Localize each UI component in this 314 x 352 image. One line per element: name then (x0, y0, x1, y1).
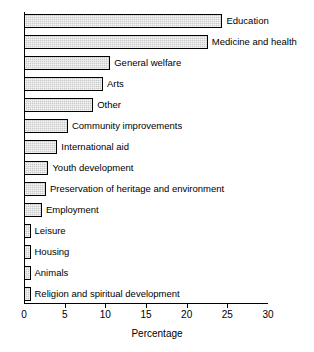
bar (24, 56, 110, 70)
x-axis-title: Percentage (0, 328, 314, 339)
bar-row: Other (24, 96, 268, 117)
bar-category-label: Community improvements (72, 119, 182, 133)
bar-category-label: Animals (35, 266, 69, 280)
bar-category-label: International aid (61, 140, 129, 154)
bar-category-label: Leisure (35, 224, 66, 238)
plot-area: EducationMedicine and healthGeneral welf… (24, 12, 268, 300)
bar (24, 35, 208, 49)
bar-row: General welfare (24, 54, 268, 75)
bar (24, 140, 57, 154)
bar-row: Employment (24, 201, 268, 222)
bar-row: Housing (24, 243, 268, 264)
bar-row: Animals (24, 264, 268, 285)
bar-category-label: General welfare (114, 56, 181, 70)
bar-category-label: Youth development (52, 161, 133, 175)
bar-row: Preservation of heritage and environment (24, 180, 268, 201)
x-tick-label: 25 (215, 309, 239, 321)
x-tick-label: 20 (175, 309, 199, 321)
bar-category-label: Preservation of heritage and environment (50, 182, 224, 196)
x-tick-mark (187, 303, 188, 308)
bar (24, 119, 68, 133)
bar (24, 203, 42, 217)
bar (24, 161, 48, 175)
bar-category-label: Religion and spiritual development (35, 287, 180, 301)
bar-series: EducationMedicine and healthGeneral welf… (24, 12, 268, 300)
bar-row: Community improvements (24, 117, 268, 138)
x-tick-label: 30 (256, 309, 280, 321)
bar (24, 224, 31, 238)
x-tick-label: 0 (12, 309, 36, 321)
bar-category-label: Other (97, 98, 121, 112)
bar (24, 287, 31, 301)
bar-category-label: Medicine and health (212, 35, 297, 49)
bar-category-label: Education (226, 14, 268, 28)
x-tick-mark (146, 303, 147, 308)
x-tick-label: 10 (93, 309, 117, 321)
bar-row: International aid (24, 138, 268, 159)
bar-category-label: Arts (107, 77, 124, 91)
x-tick-label: 15 (134, 309, 158, 321)
bar (24, 182, 46, 196)
bar (24, 98, 93, 112)
bar-row: Arts (24, 75, 268, 96)
bar (24, 77, 103, 91)
x-tick-mark (227, 303, 228, 308)
bar-row: Leisure (24, 222, 268, 243)
bar-row: Medicine and health (24, 33, 268, 54)
x-tick-mark (105, 303, 106, 308)
bar-category-label: Housing (35, 245, 70, 259)
bar (24, 14, 222, 28)
bar-category-label: Employment (46, 203, 99, 217)
bar (24, 245, 31, 259)
x-tick-mark (65, 303, 66, 308)
bar-chart: EducationMedicine and healthGeneral welf… (0, 0, 314, 352)
bar-row: Youth development (24, 159, 268, 180)
bar-row: Education (24, 12, 268, 33)
x-tick-label: 5 (53, 309, 77, 321)
bar (24, 266, 31, 280)
